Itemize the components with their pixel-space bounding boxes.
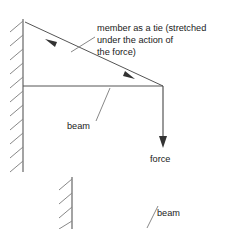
force-arrow-group bbox=[159, 86, 167, 148]
tie-caption-line-2: under the action of bbox=[97, 35, 174, 45]
upper-wall-group bbox=[10, 19, 23, 172]
arrow-down-icon bbox=[159, 136, 167, 148]
force-label: force bbox=[150, 154, 170, 164]
beam-label-leader-line-upper bbox=[96, 88, 110, 121]
arrow-up-left-icon bbox=[45, 39, 57, 47]
wall-hatching-icon bbox=[59, 179, 72, 229]
tie-caption-text: member as a tie (stretched under the act… bbox=[97, 23, 206, 57]
wall-hatching-icon bbox=[10, 21, 23, 172]
diagram-svg: member as a tie (stretched under the act… bbox=[0, 0, 225, 229]
beam-label-upper: beam bbox=[67, 121, 90, 131]
structural-diagram-canvas: member as a tie (stretched under the act… bbox=[0, 0, 225, 229]
lower-wall-group bbox=[59, 177, 72, 229]
tie-caption-line-3: the force) bbox=[97, 47, 136, 57]
beam-label-lower: beam bbox=[157, 208, 180, 218]
tie-caption-line-1: member as a tie (stretched bbox=[97, 23, 206, 33]
